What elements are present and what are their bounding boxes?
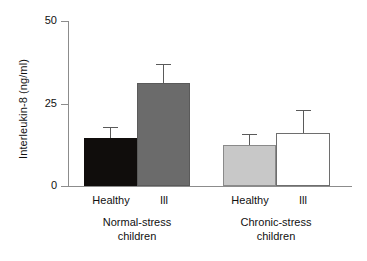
bar-chronic-stress-healthy (223, 145, 276, 186)
y-tick-mark-50 (61, 21, 68, 22)
y-axis-line (68, 21, 69, 186)
error-bar-stem-chronic-stress-ill (303, 110, 304, 133)
group-label-normal-stress-line1: Normal-stress (57, 216, 217, 230)
group-label-normal-stress-line2: children (57, 230, 217, 244)
group-label-chronic-stress: Chronic-stress children (196, 216, 356, 244)
error-bar-cap-chronic-stress-ill (296, 110, 311, 111)
error-bar-cap-chronic-stress-healthy (242, 134, 257, 135)
error-bar-stem-chronic-stress-healthy (249, 134, 250, 145)
error-bar-cap-normal-stress-healthy (103, 127, 118, 128)
y-axis-title: Interleukin-8 (ng/ml) (17, 24, 29, 194)
x-tick-label-normal-ill: Ill (124, 194, 204, 206)
bar-normal-stress-ill (137, 83, 190, 186)
y-tick-label-0: 0 (17, 180, 57, 191)
bar-normal-stress-healthy (84, 138, 137, 186)
group-label-normal-stress: Normal-stress children (57, 216, 217, 244)
bar-chronic-stress-ill (276, 133, 330, 186)
y-tick-mark-25 (61, 104, 68, 105)
error-bar-cap-normal-stress-ill (156, 64, 171, 65)
y-tick-label-25: 25 (17, 98, 57, 109)
group-label-chronic-stress-line1: Chronic-stress (196, 216, 356, 230)
bar-chart: Interleukin-8 (ng/ml) 50 25 0 Healthy Il… (0, 0, 367, 261)
y-tick-label-50: 50 (17, 15, 57, 26)
x-axis-line (68, 186, 352, 187)
x-tick-label-chronic-ill: Ill (263, 194, 343, 206)
group-label-chronic-stress-line2: children (196, 230, 356, 244)
error-bar-stem-normal-stress-healthy (110, 127, 111, 138)
error-bar-stem-normal-stress-ill (163, 64, 164, 83)
y-tick-mark-0 (61, 186, 68, 187)
